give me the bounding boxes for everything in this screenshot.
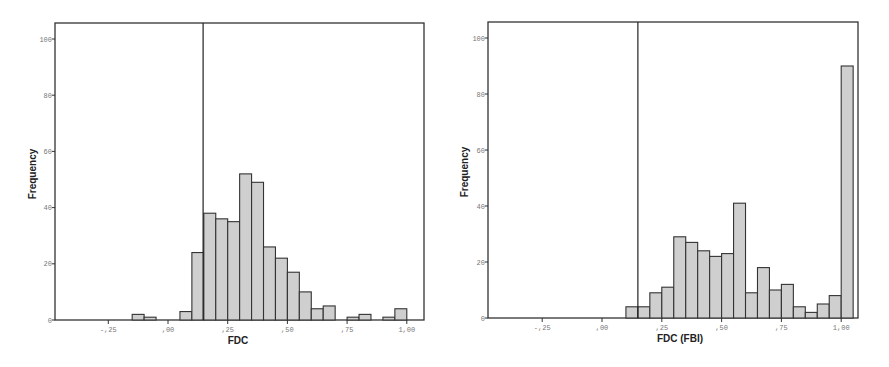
x-tick-label: ,75 <box>775 324 788 332</box>
y-axis-title: Frequency <box>459 146 470 197</box>
y-tick-label: 80 <box>44 92 52 100</box>
histogram-bar <box>204 213 216 320</box>
y-tick-label: 40 <box>44 204 52 212</box>
histogram-bar <box>710 256 722 318</box>
x-tick-label: 1,00 <box>398 326 415 334</box>
y-tick-label: 60 <box>44 148 52 156</box>
histogram-bar <box>383 317 395 320</box>
x-tick-label: ,50 <box>281 326 294 334</box>
x-axis-title: FDC <box>228 335 249 346</box>
y-tick-label: 20 <box>477 259 485 267</box>
x-tick-label: -,25 <box>534 324 551 332</box>
y-tick-label: 0 <box>48 317 52 325</box>
histogram-bar <box>722 254 734 318</box>
left-histogram: 020406080100-,25,00,25,50,751,00FDCFrequ… <box>27 23 424 346</box>
x-axis-title: FDC (FBI) <box>657 333 703 344</box>
histogram-bar <box>287 272 299 320</box>
y-tick-label: 100 <box>472 35 485 43</box>
y-tick-label: 100 <box>39 36 52 44</box>
plot-frame <box>488 22 858 318</box>
histogram-bar <box>264 247 276 320</box>
y-tick-label: 80 <box>477 91 485 99</box>
histogram-bar <box>698 251 710 318</box>
histogram-bar <box>347 317 359 320</box>
right-histogram: 020406080100-,25,00,25,50,751,00FDC (FBI… <box>459 22 858 344</box>
histogram-bar <box>686 242 698 318</box>
y-tick-label: 60 <box>477 147 485 155</box>
histogram-bar <box>757 268 769 318</box>
histogram-bar <box>829 296 841 318</box>
histogram-bar <box>323 306 335 320</box>
histogram-bar <box>650 293 662 318</box>
histogram-figure: 020406080100-,25,00,25,50,751,00FDCFrequ… <box>0 0 889 367</box>
histogram-bar <box>674 237 686 318</box>
histogram-bar <box>841 66 853 318</box>
x-tick-label: ,00 <box>162 326 175 334</box>
histogram-bar <box>144 317 156 320</box>
histogram-bar <box>817 304 829 318</box>
x-tick-label: -,25 <box>100 326 117 334</box>
histogram-bar <box>299 292 311 320</box>
histogram-bar <box>395 309 407 320</box>
histogram-bar <box>275 258 287 320</box>
histogram-bar <box>781 284 793 318</box>
histogram-bar <box>793 307 805 318</box>
histogram-bar <box>359 314 371 320</box>
histogram-bar <box>769 290 781 318</box>
x-tick-label: ,25 <box>655 324 668 332</box>
x-tick-label: 1,00 <box>833 324 850 332</box>
x-tick-label: ,50 <box>715 324 728 332</box>
x-tick-label: ,00 <box>596 324 609 332</box>
x-tick-label: ,75 <box>341 326 354 334</box>
histogram-bar <box>626 307 638 318</box>
histogram-bar <box>746 293 758 318</box>
y-axis-title: Frequency <box>27 148 38 199</box>
histogram-bar <box>180 312 192 320</box>
y-tick-label: 20 <box>44 260 52 268</box>
histogram-bar <box>192 253 204 320</box>
histogram-bar <box>805 312 817 318</box>
histogram-bar <box>228 222 240 320</box>
x-tick-label: ,25 <box>221 326 234 334</box>
y-tick-label: 40 <box>477 203 485 211</box>
histogram-bar <box>734 203 746 318</box>
histogram-bar <box>662 287 674 318</box>
histogram-bar <box>311 309 323 320</box>
histogram-bar <box>132 314 144 320</box>
histogram-bar <box>216 219 228 320</box>
histograms-svg: 020406080100-,25,00,25,50,751,00FDCFrequ… <box>0 0 889 367</box>
histogram-bar <box>252 182 264 320</box>
histogram-bar <box>240 174 252 320</box>
histogram-bar <box>638 307 650 318</box>
y-tick-label: 0 <box>481 315 485 323</box>
